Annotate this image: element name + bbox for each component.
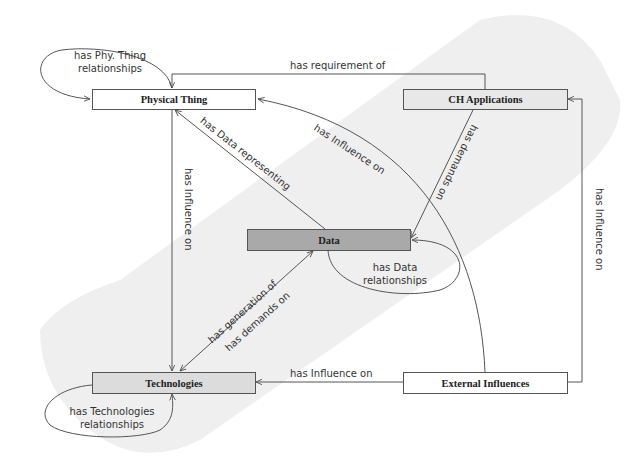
label-line: relationships	[62, 418, 162, 431]
node-ch-applications: CH Applications	[403, 89, 568, 110]
label-line: has Data	[355, 261, 435, 274]
label-influence-vertical-right: has Influence on	[594, 188, 605, 271]
label-line: has Phy. Thing	[70, 49, 150, 62]
label-phy-self: has Phy. Thing relationships	[70, 49, 150, 75]
node-technologies: Technologies	[92, 372, 256, 394]
label-tech-self: has Technologies relationships	[62, 405, 162, 431]
node-data: Data	[247, 229, 411, 251]
node-label: Technologies	[145, 378, 202, 389]
diagram-canvas: Physical Thing CH Applications Data Tech…	[0, 0, 628, 467]
node-label: Physical Thing	[141, 94, 208, 105]
label-line: has Technologies	[62, 405, 162, 418]
node-physical-thing: Physical Thing	[92, 89, 256, 110]
label-line: relationships	[70, 62, 150, 75]
label-influence-vertical-left: has Influence on	[183, 168, 194, 251]
node-label: CH Applications	[448, 94, 522, 105]
label-line: relationships	[355, 274, 435, 287]
label-influence-bottom: has Influence on	[290, 368, 373, 379]
label-requirement: has requirement of	[290, 60, 385, 71]
node-external-influences: External Influences	[403, 372, 568, 394]
node-label: External Influences	[442, 378, 530, 389]
node-label: Data	[318, 235, 340, 246]
label-data-self: has Data relationships	[355, 261, 435, 287]
